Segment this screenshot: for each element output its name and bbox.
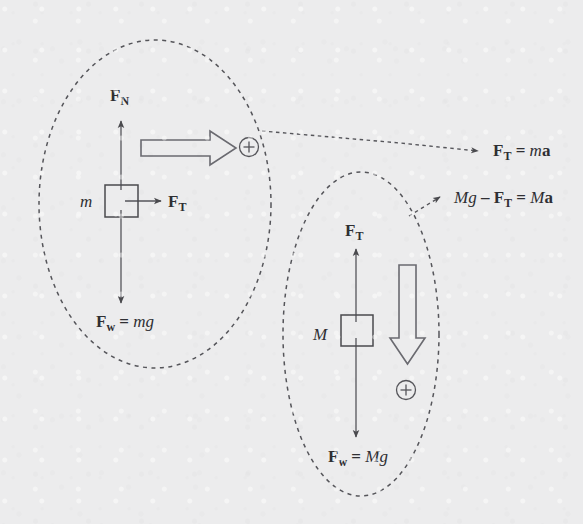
figure-canvas: FN m FT Fw = mg: [0, 0, 583, 524]
acceleration-arrow-down-hollow: [390, 265, 425, 364]
system-boundary-left-ellipse: [39, 40, 271, 368]
leader-line-to-equation-1: [262, 131, 478, 151]
label-weight-force-right: Fw = Mg: [328, 447, 388, 469]
label-weight-force-left: Fw = mg: [96, 312, 154, 334]
leader-line-to-equation-2: [409, 197, 440, 216]
equation-mass-m: FT = ma: [493, 141, 551, 163]
label-tension-force-right: FT: [345, 221, 363, 243]
leader-lines: [262, 131, 478, 216]
label-normal-force: FN: [110, 86, 129, 108]
system-left-mass-m: FN m FT Fw = mg: [39, 40, 271, 368]
mass-block-M: [341, 315, 373, 346]
label-mass-M: M: [312, 325, 328, 344]
system-right-mass-M: FT M Fw = Mg: [283, 172, 439, 496]
positive-direction-marker-left: [240, 138, 259, 157]
acceleration-arrow-right-hollow: [141, 131, 236, 165]
equation-mass-M: Mg – FT = Ma: [453, 188, 553, 210]
label-tension-force-left: FT: [168, 192, 186, 214]
positive-direction-marker-right: [397, 381, 416, 400]
label-mass-m: m: [80, 192, 92, 211]
equations-group: FT = ma Mg – FT = Ma: [453, 141, 553, 210]
free-body-diagram-svg: FN m FT Fw = mg: [0, 0, 583, 524]
